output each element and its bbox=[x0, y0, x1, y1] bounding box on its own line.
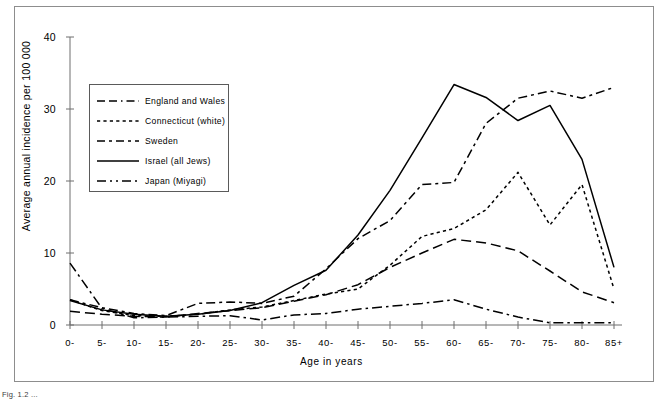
x-tick-10: 50- bbox=[373, 337, 407, 348]
legend-item-england-and-wales: England and Wales bbox=[97, 91, 223, 111]
y-tick-20: 20 bbox=[30, 175, 56, 187]
x-axis-title: Age in years bbox=[300, 356, 363, 367]
legend-item-connecticut-white: Connecticut (white) bbox=[97, 111, 223, 131]
y-tick-40: 40 bbox=[30, 31, 56, 43]
x-tick-3: 15- bbox=[149, 337, 183, 348]
y-tick-30: 30 bbox=[30, 103, 56, 115]
series-line-england-and-wales bbox=[70, 239, 614, 317]
y-axis-title: Average annual incidence per 100 000 bbox=[20, 26, 32, 246]
legend-label-sweden: Sweden bbox=[145, 136, 178, 146]
legend-label-england-and-wales: England and Wales bbox=[145, 96, 225, 106]
x-tick-0: 0- bbox=[53, 337, 87, 348]
figure-caption: Fig. 1.2 ... bbox=[2, 390, 38, 399]
x-tick-8: 40- bbox=[309, 337, 343, 348]
series-line-japan-miyagi bbox=[70, 263, 614, 323]
legend-item-japan-miyagi: Japan (Miyagi) bbox=[97, 171, 223, 191]
x-tick-5: 25- bbox=[213, 337, 247, 348]
x-tick-12: 60- bbox=[437, 337, 471, 348]
x-tick-16: 80- bbox=[565, 337, 599, 348]
legend-label-connecticut-white: Connecticut (white) bbox=[145, 116, 225, 126]
chart-legend: England and Wales Connecticut (white) Sw… bbox=[89, 84, 229, 192]
x-tick-13: 65- bbox=[469, 337, 503, 348]
x-tick-11: 55- bbox=[405, 337, 439, 348]
x-tick-7: 35- bbox=[277, 337, 311, 348]
series-line-connecticut-white bbox=[70, 172, 614, 316]
legend-label-israel-all-jews: Israel (all Jews) bbox=[145, 156, 211, 166]
x-tick-15: 75- bbox=[533, 337, 567, 348]
legend-label-japan-miyagi: Japan (Miyagi) bbox=[145, 176, 206, 186]
chart-plot-area: Average annual incidence per 100 000 Age… bbox=[0, 0, 666, 400]
y-tick-10: 10 bbox=[30, 247, 56, 259]
x-tick-1: 5- bbox=[85, 337, 119, 348]
x-tick-9: 45- bbox=[341, 337, 375, 348]
figure-container: Average annual incidence per 100 000 Age… bbox=[0, 0, 666, 400]
legend-item-israel-all-jews: Israel (all Jews) bbox=[97, 151, 223, 171]
legend-swatch-israel-all-jews bbox=[97, 156, 139, 166]
legend-swatch-connecticut-white bbox=[97, 116, 139, 126]
x-tick-4: 20- bbox=[181, 337, 215, 348]
x-tick-14: 70- bbox=[501, 337, 535, 348]
y-tick-0: 0 bbox=[30, 319, 56, 331]
x-tick-2: 10- bbox=[117, 337, 151, 348]
x-tick-17: 85+ bbox=[597, 337, 631, 348]
legend-item-sweden: Sweden bbox=[97, 131, 223, 151]
legend-swatch-japan-miyagi bbox=[97, 176, 139, 186]
x-tick-6: 30- bbox=[245, 337, 279, 348]
legend-swatch-sweden bbox=[97, 136, 139, 146]
legend-swatch-england-and-wales bbox=[97, 96, 139, 106]
